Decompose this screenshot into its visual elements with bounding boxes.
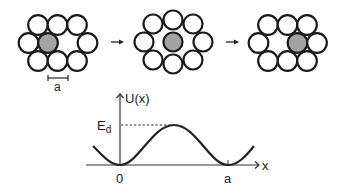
arrow-right-icon xyxy=(111,40,124,45)
atom xyxy=(135,33,154,52)
atom xyxy=(258,51,278,71)
atom xyxy=(307,33,327,53)
atom xyxy=(67,15,87,35)
atom xyxy=(48,15,68,35)
lattice-panel-initial xyxy=(19,15,98,71)
atom xyxy=(278,51,298,71)
diffusion-diagram: a xyxy=(0,0,347,194)
moving-atom xyxy=(164,33,183,52)
atom xyxy=(164,11,183,30)
atom xyxy=(67,51,87,71)
moving-atom xyxy=(288,33,308,53)
atom xyxy=(194,33,213,52)
atom xyxy=(144,51,163,70)
lattice-panel-saddle xyxy=(135,11,213,74)
atom xyxy=(28,51,48,71)
atom xyxy=(297,51,317,71)
atom xyxy=(48,51,68,71)
x-axis-label: x xyxy=(262,158,269,173)
potential-plot xyxy=(86,94,259,169)
atom xyxy=(28,15,48,35)
atom xyxy=(144,15,163,34)
atom xyxy=(297,15,317,35)
atom xyxy=(164,55,183,74)
arrow-right-icon xyxy=(226,40,239,45)
atom xyxy=(19,33,39,53)
tick-label-a: a xyxy=(224,171,232,186)
atom xyxy=(249,33,269,53)
lattice-panel-final xyxy=(249,15,327,71)
potential-curve xyxy=(93,125,254,165)
y-axis-label: U(x) xyxy=(125,91,150,106)
atom xyxy=(78,33,98,53)
tick-label-zero: 0 xyxy=(116,171,123,186)
moving-atom xyxy=(38,33,58,53)
atom xyxy=(184,15,203,34)
atom xyxy=(184,51,203,70)
scale-bar-label: a xyxy=(54,80,61,94)
energy-label: Ed xyxy=(97,118,111,135)
atom xyxy=(258,15,278,35)
atom xyxy=(278,15,298,35)
